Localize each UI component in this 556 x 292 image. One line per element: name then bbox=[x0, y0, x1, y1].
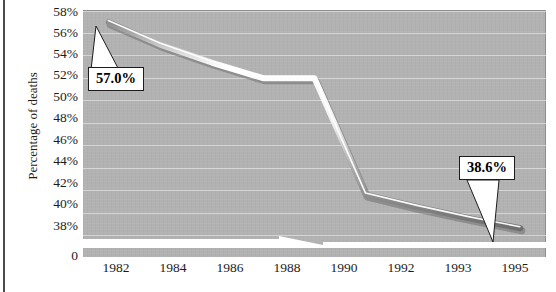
y-tick-54: 54% bbox=[6, 47, 78, 61]
y-tick-52: 52% bbox=[6, 68, 78, 82]
y-tick-42: 42% bbox=[6, 176, 78, 190]
y-tick-50: 50% bbox=[6, 90, 78, 104]
x-tick-1984: 1984 bbox=[160, 260, 187, 276]
y-tick-38: 38% bbox=[6, 219, 78, 233]
chart-figure: Percentage of deaths 58% 56% 54% 52% 50%… bbox=[0, 0, 556, 292]
y-axis-break bbox=[83, 236, 546, 248]
y-tick-40: 40% bbox=[6, 197, 78, 211]
x-axis-labels: 1982 1984 1986 1988 1990 1992 1993 1995 … bbox=[83, 260, 546, 284]
y-tick-46: 46% bbox=[6, 133, 78, 147]
y-tick-zero: 0 bbox=[6, 249, 78, 263]
callout-first: 57.0% bbox=[88, 67, 144, 91]
x-tick-1986: 1986 bbox=[217, 260, 244, 276]
x-tick-1993: 1993 bbox=[445, 260, 472, 276]
x-tick-1988: 1988 bbox=[274, 260, 301, 276]
x-tick-1992: 1992 bbox=[388, 260, 415, 276]
y-tick-44: 44% bbox=[6, 154, 78, 168]
y-tick-58: 58% bbox=[6, 5, 78, 19]
x-tick-1990: 1990 bbox=[331, 260, 358, 276]
y-axis-labels: Percentage of deaths 58% 56% 54% 52% 50%… bbox=[0, 0, 78, 292]
x-tick-1995: 1995 bbox=[502, 260, 529, 276]
y-tick-48: 48% bbox=[6, 111, 78, 125]
y-tick-56: 56% bbox=[6, 26, 78, 40]
callout-last: 38.6% bbox=[459, 156, 515, 180]
x-tick-1982: 1982 bbox=[103, 260, 130, 276]
plot-area: 57.0% 38.6% bbox=[83, 10, 546, 257]
